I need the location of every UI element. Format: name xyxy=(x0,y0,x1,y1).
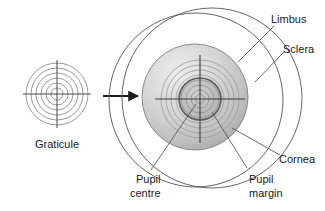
pupil-margin-label-line1: Pupil xyxy=(249,173,273,185)
leader-line-limbus xyxy=(238,26,274,62)
graticule-label: Graticule xyxy=(35,138,79,150)
cornea-label: Cornea xyxy=(279,153,316,165)
graticule-small-group xyxy=(23,60,91,128)
pupil-centre-label-line1: Pupil xyxy=(136,173,160,185)
eye-diagram-canvas: Graticule xyxy=(0,0,325,211)
eye-graticule-figure: Graticule xyxy=(0,0,325,211)
sclera-label: Sclera xyxy=(283,43,315,55)
pupil-margin-label-line2: margin xyxy=(249,187,283,199)
limbus-label: Limbus xyxy=(271,13,307,25)
pupil-centre-label-line2: centre xyxy=(130,187,161,199)
